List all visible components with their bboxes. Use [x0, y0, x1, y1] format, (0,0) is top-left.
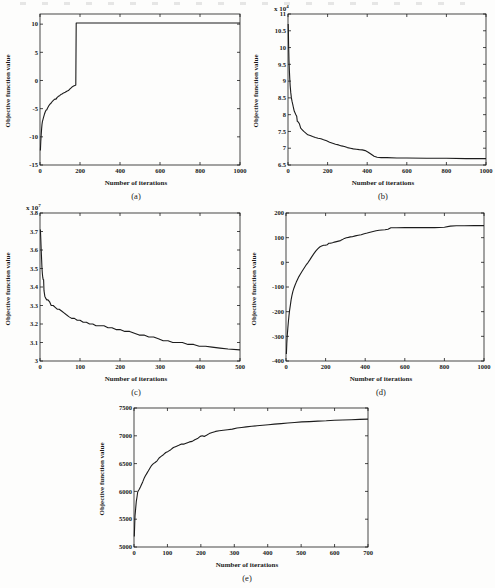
chart-b-ylabel: Objective function value: [250, 4, 262, 178]
svg-text:11: 11: [280, 10, 286, 17]
svg-text:600: 600: [155, 167, 165, 174]
svg-text:10: 10: [280, 44, 287, 51]
svg-text:-100: -100: [272, 283, 284, 290]
svg-text:3.7: 3.7: [30, 228, 39, 235]
svg-text:3.8: 3.8: [30, 209, 39, 216]
svg-text:7000: 7000: [119, 432, 132, 439]
svg-text:6.5: 6.5: [278, 161, 287, 168]
svg-text:200: 200: [274, 209, 284, 216]
chart-a: Objective function value 020040060080010…: [2, 4, 248, 204]
chart-d: Objective function value 020040060080010…: [248, 203, 492, 400]
svg-text:10: 10: [32, 20, 39, 27]
chart-d-ylabel: Objective function value: [248, 203, 260, 374]
svg-text:6000: 6000: [119, 488, 132, 495]
chart-a-plot: 02004006008001000-15-10-50510: [14, 4, 248, 178]
svg-text:200: 200: [321, 363, 331, 370]
svg-text:0: 0: [286, 167, 289, 174]
svg-text:3.2: 3.2: [30, 320, 38, 327]
svg-text:8.5: 8.5: [278, 94, 287, 101]
svg-text:600: 600: [402, 167, 412, 174]
svg-text:5500: 5500: [119, 515, 132, 522]
svg-text:800: 800: [195, 167, 205, 174]
svg-text:-400: -400: [272, 357, 284, 364]
chart-d-plot: 02004006008001000-400-300-200-1000100200: [260, 203, 492, 374]
svg-text:-200: -200: [272, 308, 284, 315]
chart-a-ylabel: Objective function value: [2, 4, 14, 178]
svg-text:7: 7: [283, 144, 287, 151]
chart-a-xlabel: Number of iterations: [32, 177, 240, 189]
svg-text:3.6: 3.6: [30, 246, 39, 253]
chart-c-xlabel: Number of iterations: [32, 373, 240, 385]
svg-text:800: 800: [440, 363, 450, 370]
svg-text:0: 0: [38, 167, 41, 174]
chart-c-plot: 010020030040050033.13.23.33.43.53.63.73.…: [14, 203, 248, 374]
svg-text:9.5: 9.5: [278, 61, 287, 68]
svg-text:6500: 6500: [119, 460, 132, 467]
chart-c-ylabel: Objective function value: [2, 203, 14, 374]
svg-text:-5: -5: [33, 105, 39, 112]
svg-text:500: 500: [296, 549, 306, 556]
chart-e-xlabel: Number of iterations: [126, 559, 368, 571]
svg-text:500: 500: [235, 363, 245, 370]
chart-b: x 104 Objective function value 020040060…: [250, 4, 494, 204]
svg-text:0: 0: [35, 77, 38, 84]
svg-text:100: 100: [75, 363, 85, 370]
svg-text:400: 400: [115, 167, 125, 174]
svg-text:1000: 1000: [478, 363, 491, 370]
chart-c: x 107 Objective function value 010020030…: [2, 203, 248, 400]
svg-text:200: 200: [75, 167, 85, 174]
svg-text:400: 400: [360, 363, 370, 370]
chart-e-ylabel: Objective function value: [96, 398, 108, 560]
chart-e: Objective function value 010020030040050…: [96, 398, 376, 586]
svg-text:7500: 7500: [119, 404, 132, 411]
svg-text:0: 0: [281, 259, 284, 266]
svg-text:8: 8: [283, 111, 287, 118]
svg-text:3.5: 3.5: [30, 265, 39, 272]
svg-text:-300: -300: [272, 333, 284, 340]
svg-text:600: 600: [330, 549, 340, 556]
svg-text:0: 0: [284, 363, 287, 370]
svg-text:200: 200: [115, 363, 125, 370]
svg-text:100: 100: [274, 234, 284, 241]
chart-b-plot: 020040060080010006.577.588.599.51010.511: [262, 4, 494, 178]
svg-text:300: 300: [155, 363, 165, 370]
svg-text:0: 0: [38, 363, 41, 370]
chart-b-xlabel: Number of iterations: [280, 177, 486, 189]
svg-text:3.3: 3.3: [30, 302, 39, 309]
svg-text:3.4: 3.4: [30, 283, 39, 290]
chart-d-xlabel: Number of iterations: [278, 373, 484, 385]
chart-a-caption: (a): [32, 190, 240, 203]
svg-text:1000: 1000: [234, 167, 247, 174]
svg-text:0: 0: [132, 549, 135, 556]
chart-b-caption: (b): [280, 190, 486, 203]
svg-text:700: 700: [363, 549, 373, 556]
svg-text:-15: -15: [29, 161, 38, 168]
chart-e-caption: (e): [126, 572, 368, 585]
svg-text:400: 400: [263, 549, 273, 556]
svg-text:5: 5: [35, 49, 39, 56]
svg-text:7.5: 7.5: [278, 128, 287, 135]
svg-text:200: 200: [323, 167, 333, 174]
svg-text:100: 100: [163, 549, 173, 556]
svg-text:400: 400: [362, 167, 372, 174]
chart-e-plot: 0100200300400500600700500055006000650070…: [108, 398, 376, 560]
svg-text:9: 9: [283, 77, 287, 84]
svg-text:5000: 5000: [119, 543, 132, 550]
svg-text:-10: -10: [29, 133, 38, 140]
svg-text:800: 800: [442, 167, 452, 174]
svg-text:400: 400: [195, 363, 205, 370]
svg-text:10.5: 10.5: [275, 27, 287, 34]
svg-text:200: 200: [196, 549, 206, 556]
figure-page: Objective function value 020040060080010…: [0, 0, 495, 588]
svg-text:1000: 1000: [480, 167, 493, 174]
svg-text:3.1: 3.1: [30, 339, 38, 346]
svg-text:300: 300: [229, 549, 239, 556]
svg-text:600: 600: [400, 363, 410, 370]
